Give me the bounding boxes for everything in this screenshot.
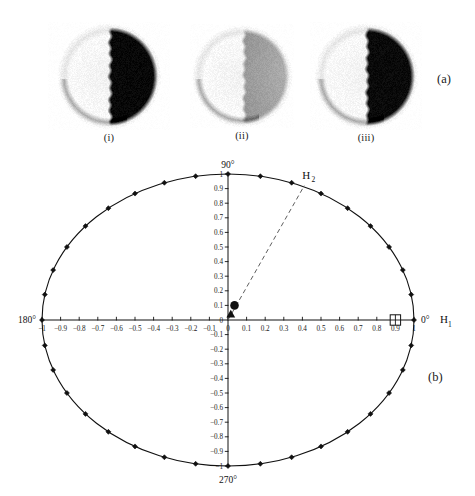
scintigram-i-image <box>48 22 170 130</box>
data-point-diamond <box>258 461 263 466</box>
y-tick-label: 0.9 <box>214 185 223 193</box>
x-tick-label: −0.7 <box>91 325 104 333</box>
scintigram-iii-label: (iii) <box>310 132 422 143</box>
polar-chart-svg: −1−0.9−0.8−0.7−0.6−0.5−0.4−0.3−0.2−0.100… <box>0 160 475 496</box>
data-point-diamond <box>289 180 294 185</box>
y-tick-label: 0.8 <box>214 200 223 208</box>
y-tick-label: −0.9 <box>210 448 223 456</box>
x-tick-label: −0.6 <box>110 325 123 333</box>
y-tick-label: −0.2 <box>210 346 223 354</box>
y-tick-label: −0.1 <box>210 331 223 339</box>
data-point-diamond <box>193 461 198 466</box>
y-tick-label: −0.4 <box>210 375 223 383</box>
y-tick-label: 1 <box>219 171 223 179</box>
h2-dashed-axis <box>228 186 304 320</box>
svg-text:1: 1 <box>448 320 452 329</box>
y-tick-label: −0.5 <box>210 390 223 398</box>
x-tick-label: −1 <box>38 325 46 333</box>
direction-labels-group: 90°180°270°0°H1H2 <box>18 160 452 485</box>
x-tick-label: 0.8 <box>372 325 381 333</box>
panel-a-letter: (a) <box>437 72 451 87</box>
x-tick-label: 0.1 <box>242 325 251 333</box>
x-tick-label: 0.2 <box>261 325 270 333</box>
data-point-diamond <box>40 318 45 323</box>
scintigram-iii-container: (iii) <box>310 22 422 130</box>
x-tick-label: −0.5 <box>128 325 141 333</box>
x-tick-label: −0.8 <box>73 325 86 333</box>
y-tick-label: −0.6 <box>210 404 223 412</box>
h2-annotation-label: H2 <box>302 169 315 185</box>
x-tick-label: −0.3 <box>166 325 179 333</box>
data-point-diamond <box>162 455 167 460</box>
direction-label-270: 270° <box>219 475 237 485</box>
svg-text:2: 2 <box>311 175 315 184</box>
y-tick-label: −1 <box>215 463 223 471</box>
y-axis-ticks: −1−0.9−0.8−0.7−0.6−0.5−0.4−0.3−0.2−0.10.… <box>210 171 229 471</box>
data-point-diamond <box>258 174 263 179</box>
data-point-diamond <box>409 292 414 297</box>
scintigram-i-container: (i) <box>48 22 170 130</box>
data-point-diamond <box>133 444 138 449</box>
x-tick-label: 0 <box>226 325 230 333</box>
x-tick-label: 1 <box>412 325 416 333</box>
scintigram-i-label: (i) <box>48 132 170 143</box>
x-tick-label: 0.5 <box>317 325 326 333</box>
data-point-diamond <box>319 191 324 196</box>
data-point-diamond <box>51 367 56 372</box>
y-tick-label: 0.2 <box>214 287 223 295</box>
data-point-diamond <box>42 343 47 348</box>
crossed-square-marker <box>390 315 400 325</box>
data-point-diamond <box>51 268 56 273</box>
data-point-diamond <box>162 180 167 185</box>
svg-text:0°: 0° <box>421 315 430 325</box>
data-point-diamond <box>400 268 405 273</box>
direction-label-0-h1: 0°H1 <box>421 313 452 329</box>
panel-b-polar-plot: −1−0.9−0.8−0.7−0.6−0.5−0.4−0.3−0.2−0.100… <box>0 160 475 496</box>
data-point-diamond <box>412 318 417 323</box>
y-tick-label: −0.7 <box>210 419 223 427</box>
y-tick-label: 0.1 <box>214 302 223 310</box>
svg-text:H: H <box>302 169 310 181</box>
data-point-diamond <box>226 464 231 469</box>
x-axis-ticks: −1−0.9−0.8−0.7−0.6−0.5−0.4−0.3−0.2−0.100… <box>38 317 416 333</box>
direction-label-180: 180° <box>18 315 36 325</box>
svg-text:H: H <box>440 313 448 325</box>
y-tick-label: 0.7 <box>214 214 223 222</box>
x-tick-label: −0.4 <box>147 325 160 333</box>
filled-circle-marker <box>230 301 239 310</box>
x-tick-label: 0.9 <box>391 325 400 333</box>
data-point-diamond <box>409 343 414 348</box>
data-point-diamond <box>400 367 405 372</box>
panel-b-letter: (b) <box>428 370 443 385</box>
data-point-diamond <box>289 455 294 460</box>
y-tick-label: 0.4 <box>214 258 223 266</box>
data-point-diamond <box>42 292 47 297</box>
data-point-diamond <box>319 444 324 449</box>
y-tick-label: −0.8 <box>210 433 223 441</box>
scintigram-ii-label: (ii) <box>190 130 294 141</box>
panel-a-scintigrams: (i) (ii) (iii) (a) <box>0 0 475 160</box>
scintigram-ii-image <box>190 24 294 128</box>
scintigram-ii-container: (ii) <box>190 24 294 128</box>
scintigram-iii-image <box>310 22 422 130</box>
x-tick-label: 0.4 <box>298 325 307 333</box>
direction-label-90: 90° <box>221 160 235 170</box>
special-markers-group <box>226 301 400 325</box>
x-tick-label: 0.7 <box>354 325 363 333</box>
x-tick-label: −0.2 <box>184 325 197 333</box>
y-tick-label: 0.6 <box>214 229 223 237</box>
data-point-diamond <box>193 174 198 179</box>
y-tick-label: 0.3 <box>214 273 223 281</box>
y-tick-label: 0.5 <box>214 244 223 252</box>
x-tick-label: 0.3 <box>279 325 288 333</box>
data-point-diamond <box>133 191 138 196</box>
x-tick-label: −0.9 <box>54 325 67 333</box>
origin-label: 0 <box>219 317 223 325</box>
x-tick-label: 0.6 <box>335 325 344 333</box>
data-point-diamond <box>226 172 231 177</box>
y-tick-label: −0.3 <box>210 360 223 368</box>
